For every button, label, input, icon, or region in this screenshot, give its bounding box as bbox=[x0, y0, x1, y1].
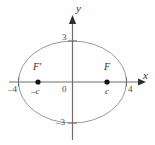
ellipse-graph-svg bbox=[0, 0, 155, 145]
origin-label: 0 bbox=[62, 85, 67, 94]
focus-coord-right: c bbox=[105, 87, 109, 96]
focus-coord-left: –c bbox=[31, 87, 40, 96]
focus-label-left: F' bbox=[33, 62, 41, 72]
focus-point-left bbox=[35, 79, 40, 84]
y-tick-label-positive-3: 3 bbox=[62, 33, 67, 42]
x-axis-label: x bbox=[143, 70, 148, 81]
y-axis-label: y bbox=[76, 3, 81, 14]
y-axis-arrowhead bbox=[69, 15, 76, 24]
x-tick-label-negative-4: –4 bbox=[8, 85, 17, 94]
ellipse-figure: x y 0 –4 4 3 –3 F' –c F c bbox=[0, 0, 155, 145]
x-tick-label-positive-4: 4 bbox=[128, 85, 133, 94]
focus-label-right: F bbox=[104, 62, 110, 72]
y-tick-label-negative-3: –3 bbox=[56, 118, 65, 127]
focus-point-right bbox=[104, 79, 109, 84]
